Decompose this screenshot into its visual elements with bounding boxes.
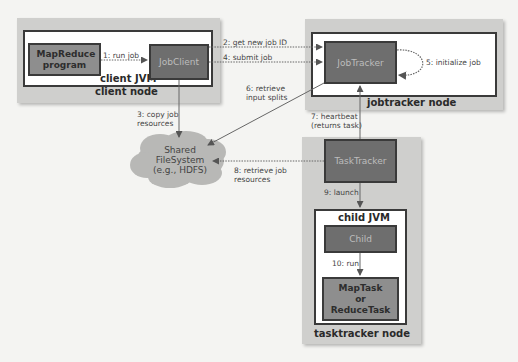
- arrow-initialize-job: [397, 50, 423, 75]
- step-10-label: 10: run: [332, 259, 359, 268]
- step-6-line1: 6: retrieve: [246, 84, 287, 93]
- step-7-line2: (returns task): [311, 121, 362, 130]
- filesystem-line1: Shared: [140, 145, 220, 155]
- step-6-line2: input splits: [246, 93, 287, 102]
- step-1-label: 1: run job: [103, 51, 139, 60]
- step-7-line1: 7: heartbeat: [311, 112, 362, 121]
- step-8-label: 8: retrieve job resources: [234, 166, 287, 184]
- step-6-label: 6: retrieve input splits: [246, 84, 287, 102]
- step-9-label: 9: launch: [324, 188, 359, 197]
- step-5-label: 5: initialize job: [426, 58, 481, 67]
- shared-filesystem-label: Shared FileSystem (e.g., HDFS): [140, 145, 220, 175]
- step-3-line1: 3: copy job: [137, 110, 178, 119]
- step-8-line1: 8: retrieve job: [234, 166, 287, 175]
- filesystem-line3: (e.g., HDFS): [140, 165, 220, 175]
- step-4-label: 4: submit job: [223, 53, 272, 62]
- filesystem-line2: FileSystem: [140, 155, 220, 165]
- step-8-line2: resources: [234, 175, 287, 184]
- step-7-label: 7: heartbeat (returns task): [311, 112, 362, 130]
- step-2-label: 2: get new job ID: [223, 38, 287, 47]
- step-3-line2: resources: [137, 119, 178, 128]
- step-3-label: 3: copy job resources: [137, 110, 178, 128]
